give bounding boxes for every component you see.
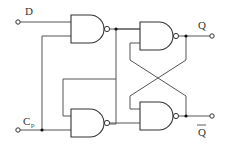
terminal-d (16, 20, 20, 24)
d-latch-circuit: D C p Q Q (0, 0, 229, 146)
terminal-cp (16, 128, 20, 132)
label-q-bar: Q (198, 126, 206, 138)
nand-gate-g3 (71, 109, 110, 137)
junction-cp (40, 128, 43, 131)
label-d: D (25, 5, 33, 17)
wire-g1-out-to-g4 (110, 29, 116, 124)
terminal-q (210, 34, 214, 38)
nand-gate-g4 (140, 102, 179, 130)
junction-q (184, 34, 187, 37)
nand-gate-g1 (71, 15, 110, 43)
nand-gate-g2 (140, 22, 179, 50)
label-cp: C (23, 115, 30, 127)
junction-g1-output (114, 27, 117, 30)
label-q: Q (198, 19, 206, 31)
junction-qbar (184, 114, 187, 117)
terminal-qbar (210, 114, 214, 118)
label-cp-subscript: p (31, 121, 35, 129)
